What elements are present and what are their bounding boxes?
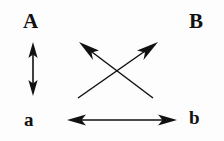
diagonal-up-right-head <box>137 42 158 60</box>
diagonal-up-left-shaft <box>88 49 153 98</box>
diagonal-up-left-head <box>79 42 99 60</box>
vertical-double-arrow-A-a <box>28 42 37 96</box>
arrow-diagram-figure: A B a b <box>0 0 224 141</box>
diagonal-up-right-shaft <box>78 49 148 98</box>
horizontal-double-arrow-a-b <box>67 114 177 125</box>
arrow-layer <box>0 0 224 141</box>
